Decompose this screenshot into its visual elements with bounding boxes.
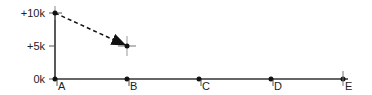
label-10k: +10k	[21, 7, 46, 19]
label-d: D	[274, 80, 282, 92]
label-0k: 0k	[33, 73, 45, 85]
dashed-arrow	[55, 13, 125, 45]
label-e: E	[345, 80, 352, 92]
label-5k: +5k	[27, 40, 46, 52]
diagram-canvas: +10k +5k 0k A B C D E	[0, 0, 372, 95]
label-b: B	[130, 80, 137, 92]
point-a-10k	[53, 11, 58, 16]
label-a: A	[58, 80, 66, 92]
label-c: C	[202, 80, 210, 92]
point-b-5k	[125, 44, 130, 49]
